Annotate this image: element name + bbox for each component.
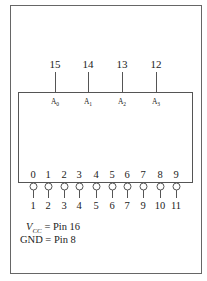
top-pin: 12A3 bbox=[151, 58, 162, 107]
signal-subscript: 3 bbox=[157, 101, 160, 107]
signal-subscript: 0 bbox=[56, 101, 59, 107]
top-pin-number: 12 bbox=[151, 58, 162, 70]
output-label: 4 bbox=[93, 169, 99, 180]
top-pin-signal-label: A1 bbox=[84, 97, 92, 107]
bottom-pin-number: 9 bbox=[140, 200, 145, 211]
bottom-pin: 67 bbox=[124, 169, 131, 211]
output-label: 5 bbox=[109, 169, 114, 180]
bottom-pin: 79 bbox=[140, 169, 147, 211]
top-pin-number: 15 bbox=[50, 58, 62, 70]
output-label: 2 bbox=[61, 169, 66, 180]
output-label: 1 bbox=[45, 169, 50, 180]
output-label: 8 bbox=[157, 169, 162, 180]
bottom-pin-number: 7 bbox=[124, 200, 129, 211]
bottom-pin-number: 10 bbox=[155, 200, 166, 211]
bottom-pins-group: 0112233445566779810911 bbox=[30, 169, 181, 211]
output-label: 0 bbox=[30, 169, 35, 180]
bottom-pin-number: 3 bbox=[61, 200, 66, 211]
inversion-bubble bbox=[157, 183, 164, 190]
gnd-value: GND = Pin 8 bbox=[20, 234, 76, 245]
inversion-bubble bbox=[61, 183, 68, 190]
inversion-bubble bbox=[140, 183, 147, 190]
inversion-bubble bbox=[45, 183, 52, 190]
bottom-pin: 01 bbox=[30, 169, 37, 211]
inversion-bubble bbox=[173, 183, 180, 190]
top-pin-signal-label: A3 bbox=[152, 97, 160, 107]
bottom-pin: 45 bbox=[93, 169, 100, 211]
top-pins-group: 15A014A113A212A3 bbox=[50, 58, 162, 107]
signal-subscript: 1 bbox=[89, 101, 92, 107]
top-pin-number: 14 bbox=[83, 58, 95, 70]
gnd-note: GND = Pin 8 bbox=[20, 234, 76, 246]
signal-subscript: 2 bbox=[123, 101, 126, 107]
top-pin-signal-label: A2 bbox=[118, 97, 126, 107]
inversion-bubble bbox=[76, 183, 83, 190]
inversion-bubble bbox=[124, 183, 131, 190]
bottom-pin-number: 6 bbox=[109, 200, 114, 211]
bottom-pin: 56 bbox=[109, 169, 116, 211]
bottom-pin: 810 bbox=[155, 169, 166, 211]
bottom-pin: 12 bbox=[45, 169, 52, 211]
bottom-pin-number: 11 bbox=[171, 200, 181, 211]
inversion-bubble bbox=[109, 183, 116, 190]
output-label: 3 bbox=[76, 169, 81, 180]
inversion-bubble bbox=[93, 183, 100, 190]
output-label: 6 bbox=[124, 169, 129, 180]
output-label: 9 bbox=[173, 169, 178, 180]
top-pin-number: 13 bbox=[117, 58, 129, 70]
bottom-pin-number: 5 bbox=[93, 200, 98, 211]
inversion-bubble bbox=[30, 183, 37, 190]
top-pin-signal-label: A0 bbox=[51, 97, 59, 107]
bottom-pin-number: 2 bbox=[45, 200, 50, 211]
bottom-pin-number: 4 bbox=[76, 200, 82, 211]
top-pin: 15A0 bbox=[50, 58, 62, 107]
bottom-pin: 911 bbox=[171, 169, 181, 211]
top-pin: 14A1 bbox=[83, 58, 95, 107]
bottom-pin-number: 1 bbox=[30, 200, 35, 211]
bottom-pin: 23 bbox=[61, 169, 68, 211]
vcc-value: = Pin 16 bbox=[42, 221, 80, 232]
output-label: 7 bbox=[140, 169, 145, 180]
top-pin: 13A2 bbox=[117, 58, 129, 107]
bottom-pin: 34 bbox=[76, 169, 83, 211]
